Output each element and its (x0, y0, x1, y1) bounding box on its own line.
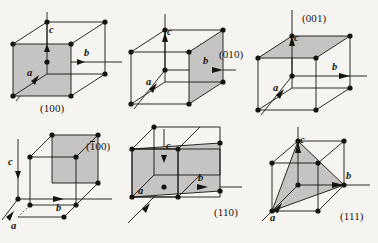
plane-label-110: (110) (214, 207, 238, 218)
vertex (129, 146, 134, 151)
vertex (27, 154, 32, 159)
vertex (269, 160, 274, 165)
shaded-plane-110 (132, 143, 220, 197)
vertex (68, 93, 73, 98)
vertex (151, 124, 156, 129)
plane-label-1bar00: (100) (86, 141, 110, 152)
panel-010: c b a (010) (126, 0, 252, 121)
axis-label-b: b (203, 56, 208, 67)
axis-label-b: b (198, 173, 203, 184)
vertex (313, 107, 318, 112)
vertex (68, 41, 73, 46)
vertex (10, 93, 15, 98)
axis-label-a: a (138, 186, 143, 197)
plane-label-100: (100) (40, 103, 64, 114)
vertex (102, 71, 107, 76)
axis-label-c: c (166, 141, 171, 152)
vertex (255, 55, 260, 60)
plane-label-001: (001) (302, 13, 326, 24)
axis-label-c: c (300, 135, 305, 146)
plane-label-rest: 00) (95, 140, 110, 152)
axis-label-a: a (27, 68, 32, 79)
axis-c-arrow (15, 171, 21, 179)
plane-label-111: (111) (340, 211, 364, 222)
axis-label-a: a (11, 221, 16, 232)
cube-edge-tl (13, 22, 47, 44)
vertex (217, 140, 222, 145)
axis-label-a: a (273, 83, 278, 94)
vertex (186, 101, 191, 106)
cube-front-face (258, 58, 316, 110)
axis-label-c: c (294, 33, 299, 44)
vertex-origin (15, 196, 20, 201)
cube-front-face (131, 52, 189, 104)
vertex (220, 79, 225, 84)
vertex (95, 132, 100, 137)
vertex (128, 49, 133, 54)
vertex (27, 202, 32, 207)
vertex (289, 73, 294, 78)
axis-label-b: b (56, 203, 61, 214)
cube-edge-br (71, 74, 105, 96)
axis-label-b: b (332, 62, 337, 73)
vertex-b-intercept (341, 182, 346, 187)
vertex (49, 132, 54, 137)
cube-edge-tr (318, 141, 344, 163)
cube-diagram-111 (252, 121, 378, 242)
cube-edge-tl (132, 127, 154, 149)
vertex (186, 49, 191, 54)
axis-label-c: c (167, 27, 172, 38)
plane-label-010: (010) (219, 49, 243, 60)
vertex (295, 182, 300, 187)
vertex (347, 33, 352, 38)
vertex (347, 85, 352, 90)
panel-100: c b a (100) (0, 0, 126, 121)
vertex (95, 180, 100, 185)
axis-label-a: a (146, 77, 151, 88)
vertex (102, 19, 107, 24)
vertex (162, 67, 167, 72)
vertex (315, 160, 320, 165)
axis-b-arrow (339, 73, 350, 79)
vertex (175, 146, 180, 151)
vertex (341, 138, 346, 143)
cube-edge-tl (131, 30, 165, 52)
panel-001: c b a (001) (252, 0, 378, 121)
vertex (73, 202, 78, 207)
panel-1bar00: c b a (100) (0, 121, 126, 242)
axis-label-a: a (270, 213, 275, 224)
axis-label-b: b (346, 171, 351, 182)
panel-110: c b a (110) (126, 121, 252, 242)
cube-edge-br (316, 88, 350, 110)
vertex (220, 27, 225, 32)
cube-edge-tr (71, 22, 105, 44)
vertex (315, 208, 320, 213)
vertex (129, 194, 134, 199)
vertex (61, 214, 66, 219)
axis-b-arrow (77, 59, 85, 65)
plane-label-overbar-digit: 1 (90, 141, 96, 152)
shaded-plane-100 (13, 44, 71, 96)
vertex (161, 184, 166, 189)
cube-diagram-010 (126, 0, 252, 121)
axis-label-c: c (49, 25, 54, 36)
cube-diagram-110 (126, 121, 252, 242)
vertex (217, 188, 222, 193)
cube-edge-br (76, 183, 98, 205)
crystal-plane-figure: c b a (100) (0, 0, 378, 243)
axis-label-c: c (8, 157, 13, 168)
vertex (73, 154, 78, 159)
vertex (313, 55, 318, 60)
cube-edge-tl (30, 135, 52, 157)
panel-111: c b a (111) (252, 121, 378, 242)
vertex (10, 41, 15, 46)
shaded-plane-001 (258, 36, 350, 58)
vertex (255, 107, 260, 112)
axis-label-b: b (84, 48, 89, 59)
vertex (175, 194, 180, 199)
vertex (44, 59, 49, 64)
vertex (128, 101, 133, 106)
